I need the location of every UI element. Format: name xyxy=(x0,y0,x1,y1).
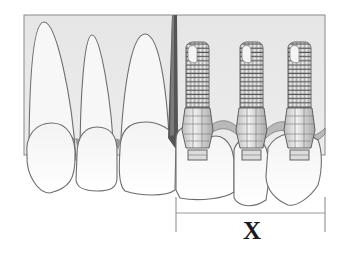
canine-crown xyxy=(119,122,176,195)
implant-3 xyxy=(284,42,315,160)
dimension-label: X xyxy=(238,218,266,243)
central-incisor-crown xyxy=(27,123,75,193)
implant-2 xyxy=(236,42,267,160)
implant-1 xyxy=(182,42,213,160)
dental-implant-diagram xyxy=(0,0,352,259)
lateral-incisor-crown xyxy=(76,127,117,191)
implants xyxy=(182,42,315,160)
